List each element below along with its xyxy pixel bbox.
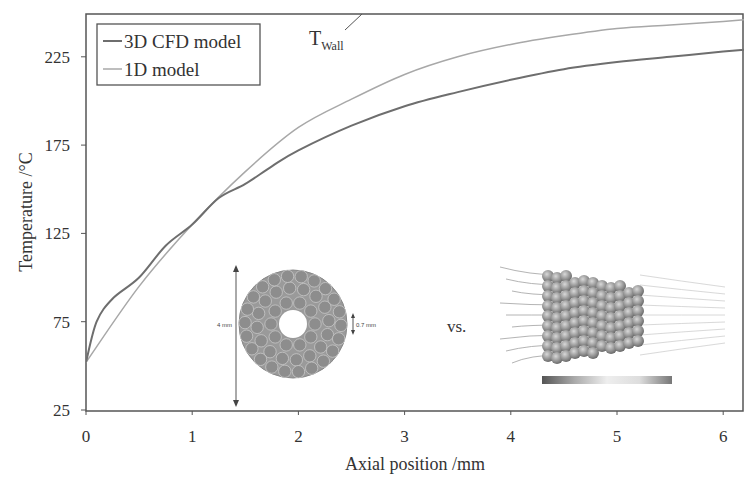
outer-dim-label: 4 mm	[217, 322, 232, 328]
legend-label-1d: 1D model	[124, 59, 199, 80]
twall-annotation: TWall	[309, 14, 362, 53]
series-3d-cfd-model	[86, 50, 744, 363]
particle-bed-render	[542, 270, 644, 364]
y-tick-label: 25	[53, 401, 70, 420]
x-tick-label: 3	[400, 427, 409, 446]
svg-text:TWall: TWall	[309, 27, 344, 53]
x-tick-label: 5	[613, 427, 622, 446]
y-tick-label: 225	[45, 48, 71, 67]
arrow-down-small-icon	[351, 330, 355, 335]
legend: 3D CFD model 1D model	[97, 24, 260, 85]
x-tick-label: 1	[188, 427, 197, 446]
arrow-down-icon	[233, 400, 239, 407]
twall-label: T	[309, 27, 321, 49]
x-tick-label: 6	[719, 427, 728, 446]
cfd-render-inset	[500, 267, 725, 384]
inner-hole	[279, 310, 307, 338]
x-tick-label: 0	[82, 427, 91, 446]
x-axis-title: Axial position /mm	[345, 454, 485, 474]
y-tick-label: 75	[53, 313, 70, 332]
y-axis: 2575125175225	[45, 48, 87, 420]
x-axis: 0123456	[82, 411, 728, 446]
inner-dim-label: 0.7 mm	[356, 322, 376, 328]
vs-label: vs.	[447, 317, 466, 336]
y-axis-title: Temperature /°C	[16, 152, 36, 271]
twall-subscript: Wall	[321, 39, 344, 53]
x-tick-label: 4	[507, 427, 516, 446]
y-tick-label: 175	[45, 136, 71, 155]
arrow-up-small-icon	[351, 313, 355, 318]
temperature-colorbar	[542, 376, 672, 384]
line-chart: 2575125175225 0123456 Axial position /mm…	[0, 0, 755, 491]
x-tick-label: 2	[294, 427, 303, 446]
arrow-up-icon	[233, 265, 239, 272]
cross-section-inset: 4 mm 0.7 mm	[217, 265, 376, 407]
twall-leader-line	[345, 14, 362, 30]
legend-label-3d: 3D CFD model	[124, 31, 241, 52]
y-tick-label: 125	[45, 224, 71, 243]
